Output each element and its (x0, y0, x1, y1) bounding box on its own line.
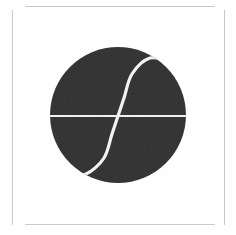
logo-svg (0, 0, 236, 235)
screenshot-canvas (0, 0, 236, 235)
logo-container (0, 0, 236, 235)
